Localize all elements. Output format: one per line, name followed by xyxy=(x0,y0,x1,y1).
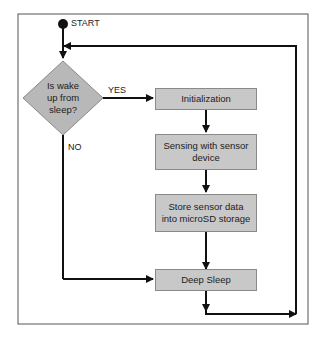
no-label: NO xyxy=(68,142,82,152)
decision-line-1: Is wake xyxy=(33,80,93,92)
decision-line-3: sleep? xyxy=(33,104,93,116)
yes-label: YES xyxy=(108,85,126,95)
decision-text: Is wake up from sleep? xyxy=(33,80,93,116)
step-initialization: Initialization xyxy=(155,88,257,110)
step-deep-sleep: Deep Sleep xyxy=(155,269,257,291)
step-sensing: Sensing with sensor device xyxy=(155,134,257,170)
step-store-data: Store sensor data into microSD storage xyxy=(155,194,257,232)
decision-line-2: up from xyxy=(33,92,93,104)
start-label: START xyxy=(71,18,100,28)
